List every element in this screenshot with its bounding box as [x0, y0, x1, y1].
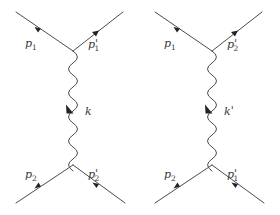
label2-p1-upper-left-base: p — [164, 37, 171, 50]
diagram-t-channel: p1 p'1 p2 p'2 k — [16, 12, 125, 203]
label2-kprime-propagator-prime: ' — [231, 104, 234, 117]
label2-p1-upper-left-sub: 1 — [171, 43, 176, 52]
label-p2-lower-left-base: p — [25, 168, 32, 181]
arrow2-incoming-upper-left-icon — [174, 27, 181, 33]
label-p1prime-upper-right-sub: 1 — [95, 44, 100, 53]
label2-p1prime-lower-right-sub: 1 — [234, 174, 239, 183]
arrow-propagator-2-icon — [205, 105, 213, 114]
feynman-diagram-figure: p1 p'1 p2 p'2 k p1 p'2 — [0, 0, 280, 215]
label2-p2prime-upper-right-sub: 2 — [234, 44, 239, 53]
label2-p1-upper-left: p1 — [164, 37, 176, 52]
label-p1-upper-left-base: p — [25, 37, 32, 50]
label2-p1prime-lower-right: p'1 — [227, 167, 238, 183]
arrow2-incoming-lower-left-icon — [174, 183, 181, 189]
label-k-propagator: k — [85, 105, 92, 118]
label2-p2-lower-left-sub: 2 — [171, 174, 176, 183]
label2-p2prime-upper-right: p'2 — [227, 37, 239, 53]
label-p1prime-upper-right: p'1 — [88, 37, 99, 53]
label2-p2-lower-left-base: p — [164, 168, 171, 181]
label2-p2-lower-left: p2 — [164, 168, 176, 183]
arrow-propagator-icon — [66, 105, 74, 114]
label-p2-lower-left: p2 — [25, 168, 37, 183]
label-p2prime-lower-right: p'2 — [88, 167, 100, 183]
label2-kprime-propagator: k' — [224, 104, 234, 118]
diagram-canvas: p1 p'1 p2 p'2 k p1 p'2 — [0, 0, 280, 215]
arrow-incoming-upper-left-icon — [35, 27, 42, 33]
arrow-incoming-lower-left-icon — [35, 183, 42, 189]
label-p1-upper-left: p1 — [25, 37, 37, 52]
label-p1-upper-left-sub: 1 — [32, 43, 37, 52]
label-p2prime-lower-right-sub: 2 — [95, 174, 100, 183]
label-p2-lower-left-sub: 2 — [32, 174, 37, 183]
label-k-propagator-base: k — [85, 105, 92, 118]
diagram-u-channel: p1 p'2 p2 p'1 k' — [155, 12, 264, 203]
